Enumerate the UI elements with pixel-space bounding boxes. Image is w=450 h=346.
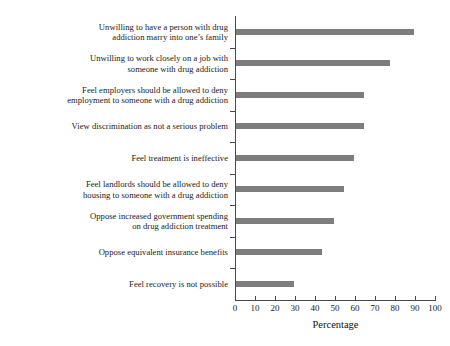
x-axis-tick	[335, 296, 336, 301]
category-label: Feel employers should be allowed to deny…	[13, 84, 228, 105]
category-label: View discrimination as not a serious pro…	[13, 121, 228, 131]
category-label: Feel recovery is not possible	[13, 279, 228, 289]
x-axis-tick-label: 100	[423, 303, 447, 313]
category-label: Unwilling to have a person with drug add…	[13, 21, 228, 42]
y-axis-tick	[230, 268, 235, 269]
bar	[236, 249, 322, 255]
chart-row: Feel recovery is not possible	[0, 268, 450, 300]
y-axis-tick	[230, 205, 235, 206]
bar	[236, 123, 364, 129]
x-axis-tick	[295, 296, 296, 301]
x-axis-tick	[415, 296, 416, 301]
x-axis-tick	[275, 296, 276, 301]
category-label: Feel treatment is ineffective	[13, 153, 228, 163]
chart-row: View discrimination as not a serious pro…	[0, 111, 450, 143]
category-label: Oppose increased government spending on …	[13, 210, 228, 231]
y-axis-tick	[230, 48, 235, 49]
x-axis-tick	[395, 296, 396, 301]
x-axis-tick	[315, 296, 316, 301]
chart-row: Feel treatment is ineffective	[0, 142, 450, 174]
bar	[236, 92, 364, 98]
bar	[236, 60, 390, 66]
bar-chart: Unwilling to have a person with drug add…	[0, 0, 450, 346]
category-label: Oppose equivalent insurance benefits	[13, 247, 228, 257]
chart-row: Feel landlords should be allowed to deny…	[0, 174, 450, 206]
x-axis-tick	[435, 296, 436, 301]
bar	[236, 155, 354, 161]
y-axis-tick	[230, 237, 235, 238]
chart-row: Oppose increased government spending on …	[0, 205, 450, 237]
bar	[236, 281, 294, 287]
x-axis-tick	[235, 296, 236, 301]
x-axis-tick	[255, 296, 256, 301]
x-axis-tick	[355, 296, 356, 301]
x-axis-title: Percentage	[235, 319, 436, 330]
chart-row: Oppose equivalent insurance benefits	[0, 237, 450, 269]
bar	[236, 186, 344, 192]
y-axis-tick	[230, 111, 235, 112]
y-axis-tick	[230, 174, 235, 175]
x-axis-tick	[375, 296, 376, 301]
chart-row: Feel employers should be allowed to deny…	[0, 79, 450, 111]
bar	[236, 218, 334, 224]
y-axis-tick	[230, 142, 235, 143]
category-label: Feel landlords should be allowed to deny…	[13, 179, 228, 200]
chart-row: Unwilling to work closely on a job with …	[0, 48, 450, 80]
y-axis-tick	[230, 79, 235, 80]
bar	[236, 29, 414, 35]
chart-row: Unwilling to have a person with drug add…	[0, 16, 450, 48]
y-axis-line	[235, 16, 236, 301]
category-label: Unwilling to work closely on a job with …	[13, 53, 228, 74]
